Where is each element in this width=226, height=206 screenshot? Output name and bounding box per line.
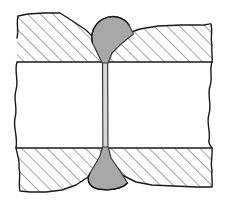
weld-seam xyxy=(103,57,108,151)
weld-cross-section-figure xyxy=(0,0,226,206)
weld-seam-fill xyxy=(103,58,108,150)
weld-drawing-canvas xyxy=(0,0,226,206)
